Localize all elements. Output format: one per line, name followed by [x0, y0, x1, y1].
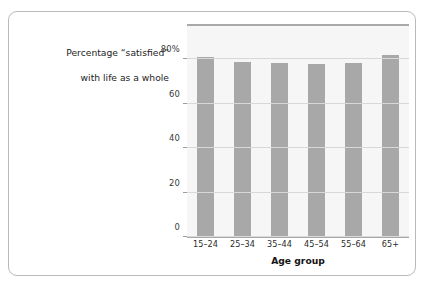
category-axis: 15–2425–3435–4445–5455–6465+: [187, 239, 409, 253]
x-axis-title: Age group: [187, 255, 409, 266]
y-tick-label-60: 60: [169, 89, 180, 99]
y-tick-mark-60: [183, 103, 187, 104]
y-tick-label-40: 40: [169, 133, 180, 143]
y-tick-label-0: 0: [174, 222, 180, 232]
gridline-60: [187, 103, 409, 104]
y-tick-mark-20: [183, 192, 187, 193]
y-tick-mark-40: [183, 147, 187, 148]
bar[interactable]: [345, 63, 363, 237]
bar[interactable]: [382, 55, 400, 237]
y-tick-mark-80: [183, 58, 187, 59]
gridline-20: [187, 192, 409, 193]
category-label: 45–54: [304, 239, 329, 249]
y-tick-mark-0: [183, 236, 187, 237]
category-label: 35–44: [267, 239, 292, 249]
gridline-40: [187, 147, 409, 148]
chart-title-line-2: with life as a whole: [19, 72, 169, 85]
y-tick-label-20: 20: [169, 178, 180, 188]
plot-area: 020406080%: [187, 24, 409, 237]
x-axis-baseline: [187, 237, 409, 238]
chart-title: Percentage “satisfied” with life as a wh…: [19, 34, 169, 97]
category-label: 55–64: [341, 239, 366, 249]
category-label: 15–24: [193, 239, 218, 249]
figure-card: Percentage “satisfied” with life as a wh…: [8, 11, 416, 276]
chart-title-line-1: Percentage “satisfied”: [19, 47, 169, 60]
category-label: 65+: [382, 239, 399, 249]
bar[interactable]: [308, 64, 326, 237]
y-tick-label-80: 80%: [161, 44, 180, 54]
bar[interactable]: [271, 63, 289, 237]
gridline-80: [187, 58, 409, 59]
category-label: 25–34: [230, 239, 255, 249]
bar[interactable]: [234, 62, 252, 237]
